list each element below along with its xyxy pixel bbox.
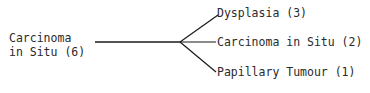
outcome-label-papillary-tumour: Papillary Tumour (1): [217, 65, 355, 79]
branch-line-papillary: [180, 42, 216, 72]
outcome-label-dysplasia: Dysplasia (3): [217, 6, 307, 20]
source-node-label: Carcinoma in Situ (6): [9, 31, 85, 59]
outcome-label-carcinoma-in-situ: Carcinoma in Situ (2): [217, 35, 362, 49]
branch-line-dysplasia: [180, 15, 218, 42]
